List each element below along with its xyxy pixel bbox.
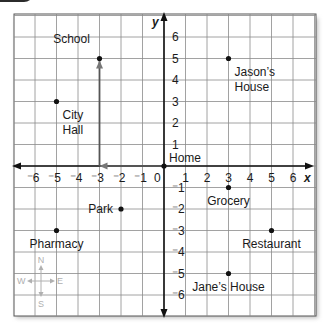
y-tick-label: 5 — [172, 52, 179, 66]
compass-w-label: W — [17, 276, 26, 286]
y-tick-label: 6 — [172, 30, 179, 44]
point-label: Jason’s — [235, 65, 275, 79]
y-tick-label: 3 — [172, 95, 179, 109]
point-marker — [161, 163, 166, 168]
point-marker — [226, 56, 231, 61]
x-tick-label: ⁻5 — [48, 171, 61, 185]
x-tick-label: 3 — [225, 171, 232, 185]
y-axis-label: y — [151, 15, 160, 29]
point-label: Home — [169, 151, 201, 165]
x-tick-label: ⁻3 — [91, 171, 104, 185]
y-tick-label: ⁻3 — [172, 224, 185, 238]
x-tick-label: ⁻4 — [70, 171, 83, 185]
y-tick-label: ⁻2 — [172, 202, 185, 216]
y-tick-label: ⁻5 — [172, 267, 185, 281]
point-marker — [54, 228, 59, 233]
y-tick-label: 2 — [172, 116, 179, 130]
point-marker — [226, 185, 231, 190]
point-marker — [97, 56, 102, 61]
point-label: School — [53, 32, 90, 46]
point-label: Restaurant — [242, 237, 301, 251]
x-tick-label: 5 — [268, 171, 275, 185]
point-marker — [118, 206, 123, 211]
origin-label: 0 — [154, 171, 161, 185]
x-tick-label: 4 — [247, 171, 254, 185]
coordinate-plane: xy ⁻6⁻5⁻4⁻3⁻2⁻1123456654321⁻1⁻2⁻3⁻4⁻5⁻60… — [0, 0, 328, 331]
point-marker — [226, 271, 231, 276]
compass-n-label: N — [38, 255, 45, 265]
y-tick-label: ⁻1 — [172, 181, 185, 195]
point-marker — [269, 228, 274, 233]
y-tick-label: ⁻4 — [172, 245, 185, 259]
y-tick-label: 4 — [172, 73, 179, 87]
point-label: Hall — [63, 123, 84, 137]
point-label: House — [235, 80, 270, 94]
point-label: Jane’s House — [192, 280, 265, 294]
x-tick-label: 2 — [204, 171, 211, 185]
compass-s-label: S — [38, 299, 44, 309]
point-label: City — [63, 108, 84, 122]
point-label: Pharmacy — [29, 237, 83, 251]
x-tick-label: ⁻1 — [134, 171, 147, 185]
point-label: Grocery — [207, 194, 250, 208]
point-marker — [54, 99, 59, 104]
x-tick-label: ⁻2 — [113, 171, 126, 185]
y-tick-label: ⁻6 — [172, 288, 185, 302]
compass-e-label: E — [57, 276, 63, 286]
x-axis-label: x — [303, 171, 312, 185]
y-tick-label: 1 — [172, 138, 179, 152]
x-tick-label: 6 — [290, 171, 297, 185]
point-label: Park — [88, 202, 114, 216]
x-tick-label: ⁻6 — [27, 171, 40, 185]
